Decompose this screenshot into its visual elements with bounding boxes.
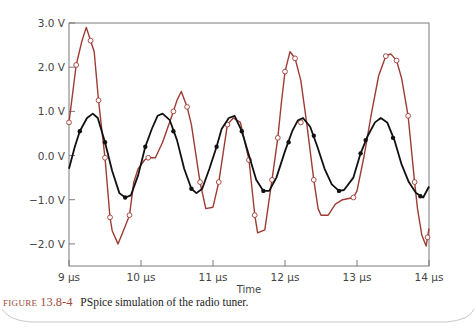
x-tick-label: 12 µs <box>271 271 300 283</box>
open-circle-marker <box>298 120 303 125</box>
open-circle-marker <box>96 98 101 103</box>
open-circle-marker <box>293 56 298 61</box>
filled-dot-marker <box>358 151 362 155</box>
x-tick-label: 13 µs <box>343 271 372 283</box>
caption-border <box>2 309 474 322</box>
open-circle-marker <box>171 109 176 114</box>
open-circle-marker <box>127 213 132 218</box>
y-tick-label: −1.0 V <box>29 194 66 206</box>
y-axis: 3.0 V2.0 V1.0 V0.0 V−1.0 V−2.0 V <box>29 17 75 250</box>
open-circle-marker <box>67 120 72 125</box>
open-circle-marker <box>351 195 356 200</box>
filled-dot-marker <box>286 140 290 144</box>
caption-figure-word: FIGURE <box>3 298 37 308</box>
filled-dot-marker <box>171 129 175 133</box>
output-waveform <box>69 27 429 246</box>
open-circle-marker <box>108 215 113 220</box>
y-tick-label: 1.0 V <box>38 105 66 117</box>
open-circle-marker <box>88 38 93 43</box>
open-circle-marker <box>74 63 79 68</box>
input-waveform <box>69 114 429 198</box>
y-tick-label: 0.0 V <box>38 150 66 162</box>
filled-dot-marker <box>363 138 367 142</box>
x-tick-label: 10 µs <box>127 271 156 283</box>
open-circle-marker <box>412 180 417 185</box>
x-tick-label: 11 µs <box>199 271 228 283</box>
open-circle-marker <box>216 180 221 185</box>
x-axis-title: Time <box>236 284 261 295</box>
open-circle-marker <box>146 155 151 160</box>
chart: 3.0 V2.0 V1.0 V0.0 V−1.0 V−2.0 V 9 µs10 … <box>0 0 476 333</box>
x-axis: 9 µs10 µs11 µs12 µs13 µs14 µs <box>58 260 444 283</box>
y-tick-label: −2.0 V <box>29 238 66 250</box>
figure-caption: FIGURE 13.8-4 PSpice simulation of the r… <box>3 295 248 310</box>
plot-frame <box>69 23 429 266</box>
filled-dot-marker <box>391 136 395 140</box>
series-layer <box>67 27 430 246</box>
open-circle-marker <box>383 54 388 59</box>
open-circle-marker <box>198 180 203 185</box>
filled-dot-marker <box>123 195 127 199</box>
y-tick-label: 2.0 V <box>38 61 66 73</box>
filled-dot-marker <box>189 186 193 190</box>
open-circle-marker <box>425 235 430 240</box>
filled-dot-marker <box>240 129 244 133</box>
open-circle-marker <box>311 177 316 182</box>
filled-dot-marker <box>78 129 82 133</box>
filled-dot-marker <box>214 145 218 149</box>
x-tick-label: 14 µs <box>415 271 444 283</box>
open-circle-marker <box>275 135 280 140</box>
plot-border <box>69 23 429 266</box>
caption-text: PSpice simulation of the radio tuner. <box>80 296 248 308</box>
open-circle-marker <box>283 69 288 74</box>
open-circle-marker <box>406 113 411 118</box>
open-circle-marker <box>185 105 190 110</box>
caption-figure-number: 13.8-4 <box>40 295 72 309</box>
filled-dot-marker <box>418 194 422 198</box>
filled-dot-marker <box>261 189 265 193</box>
filled-dot-marker <box>143 145 147 149</box>
filled-dot-marker <box>312 133 316 137</box>
y-tick-label: 3.0 V <box>38 17 66 29</box>
filled-dot-marker <box>103 140 107 144</box>
open-circle-marker <box>103 155 108 160</box>
filled-dot-marker <box>337 189 341 193</box>
x-tick-label: 9 µs <box>58 271 80 283</box>
open-circle-marker <box>252 213 257 218</box>
open-circle-marker <box>394 58 399 63</box>
